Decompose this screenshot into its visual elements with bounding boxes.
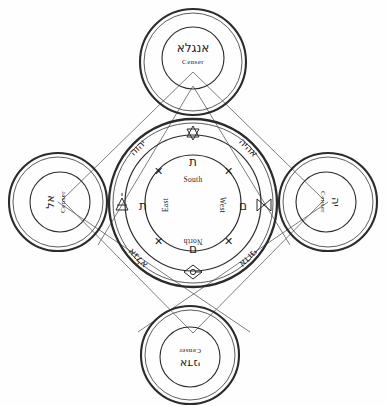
outer-name-upper-right: אהיה <box>237 136 260 159</box>
censer-left-hebrew: אל <box>44 195 57 209</box>
outer-name-lower-right: אדוני <box>237 247 260 270</box>
censer-right-hebrew: יה <box>329 197 342 207</box>
inner-letter-left: ת <box>139 199 147 213</box>
censer-right-label: Censer <box>319 191 327 213</box>
inner-letter-right: ם <box>239 199 247 213</box>
diamond-sigil <box>184 265 202 279</box>
direction-west: West <box>218 197 227 214</box>
censer-bottom[interactable]: אדני Censer <box>141 306 239 404</box>
cardinal-directions: South East West North <box>161 175 227 246</box>
direction-north: North <box>184 237 203 246</box>
bowtie-sigil <box>257 199 271 211</box>
censer-top[interactable]: אנגלא Censer <box>140 9 246 115</box>
direction-south: South <box>183 175 202 184</box>
censer-top-label: Censer <box>182 58 204 66</box>
inner-letter-top: ת <box>189 155 197 169</box>
hexagram-sigil <box>187 126 199 140</box>
cross-lower-right: ✕ <box>224 235 233 247</box>
diagram-canvas: אנגלא Censer אל Censer יה Censer אדני Ce… <box>0 0 386 406</box>
censer-left-label: Censer <box>59 191 67 213</box>
censer-top-hebrew: אנגלא <box>177 41 210 55</box>
magic-circle-diagram: אנגלא Censer אל Censer יה Censer אדני Ce… <box>0 0 386 406</box>
cross-upper-left: ✕ <box>154 165 163 177</box>
cross-upper-right: ✕ <box>224 165 233 177</box>
censer-bottom-label: Censer <box>179 347 201 355</box>
censer-bottom-hebrew: אדני <box>180 357 200 370</box>
direction-east: East <box>161 197 170 212</box>
triangle-sigil <box>116 193 128 210</box>
cross-lower-left: ✕ <box>154 235 163 247</box>
